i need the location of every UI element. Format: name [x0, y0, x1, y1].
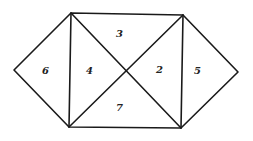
- region-label-2: 2: [155, 64, 163, 75]
- hexagon-region-diagram: 6 4 3 2 5 7: [0, 0, 253, 141]
- region-label-7: 7: [116, 102, 123, 113]
- left-vertical-edge: [69, 13, 71, 127]
- right-vertical-edge: [181, 15, 183, 128]
- region-label-6: 6: [42, 65, 49, 76]
- region-label-4: 4: [86, 65, 93, 76]
- region-label-5: 5: [194, 65, 201, 76]
- region-label-3: 3: [116, 28, 123, 39]
